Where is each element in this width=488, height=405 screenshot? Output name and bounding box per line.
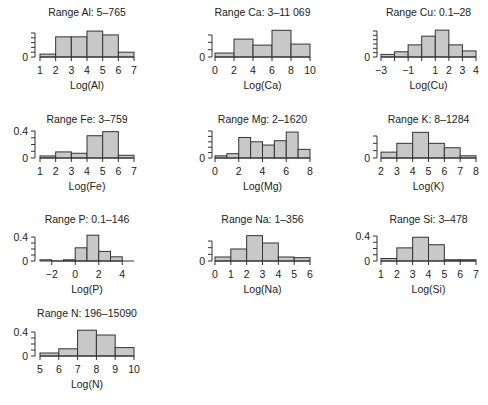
x-tick-label: 2 <box>53 165 59 177</box>
y-tick-label: 0 <box>22 51 28 63</box>
histogram-bar <box>111 257 123 261</box>
x-tick-label: 3 <box>394 165 400 177</box>
histogram-bar <box>71 153 87 158</box>
x-tick-label: 2 <box>244 268 250 280</box>
x-tick-label: 2 <box>394 268 400 280</box>
histogram-bar <box>413 132 429 158</box>
x-tick-label: 4 <box>410 165 416 177</box>
x-tick-label: 1 <box>37 165 43 177</box>
x-tick-label: 6 <box>115 165 121 177</box>
histogram-panel-fe: Range Fe: 3–7591234567Log(Fe)00.4 <box>13 113 137 192</box>
x-tick-label: 2 <box>446 64 452 76</box>
x-axis: 0246810 <box>212 57 316 76</box>
y-tick-label: 0 <box>364 152 370 164</box>
y-axis: 0 <box>22 33 35 63</box>
histogram-bars <box>381 30 476 57</box>
x-axis: 2345678 <box>378 158 479 177</box>
x-axis: 1234567 <box>37 158 137 177</box>
panel-title: Range P: 0.1–146 <box>45 213 130 225</box>
histogram-bar <box>56 37 72 57</box>
x-tick-label: 1 <box>378 268 384 280</box>
y-tick-label: 0.4 <box>13 125 28 137</box>
x-tick-label: 8 <box>288 64 294 76</box>
histogram-bar <box>40 260 52 261</box>
x-axis-label: Log(Al) <box>70 79 104 91</box>
x-tick-label: 2 <box>236 165 242 177</box>
x-tick-label: 7 <box>131 165 137 177</box>
x-tick-label: 9 <box>112 363 118 375</box>
y-tick-label: 0.4 <box>355 230 370 242</box>
x-tick-label: 8 <box>93 363 99 375</box>
x-tick-label: −3 <box>375 64 387 76</box>
y-tick-label: 0 <box>199 255 205 267</box>
histogram-bar <box>253 45 272 57</box>
histogram-bar <box>444 148 460 158</box>
histogram-bars <box>215 30 310 57</box>
panel-title: Range Ca: 3–11 069 <box>214 6 310 18</box>
y-axis: 00.4 <box>355 230 377 267</box>
x-tick-label: 0 <box>212 165 218 177</box>
x-tick-label: 2 <box>378 165 384 177</box>
x-axis: 02468 <box>212 158 313 177</box>
histogram-panel-si: Range Si: 3–4781234567Log(Si)00.4 <box>355 213 479 295</box>
y-axis: 00.4 <box>13 125 35 164</box>
x-tick-label: 6 <box>115 64 121 76</box>
histogram-bar <box>395 52 409 57</box>
x-axis: 1234567 <box>37 57 137 76</box>
y-axis: 0 <box>364 136 377 164</box>
y-axis: 0 <box>199 35 212 63</box>
histogram-bar <box>87 31 103 57</box>
x-axis: −3−11234 <box>375 57 479 76</box>
x-tick-label: 0 <box>212 268 218 280</box>
histogram-panel-k: Range K: 8–12842345678Log(K)0 <box>364 113 479 192</box>
y-axis: 00.4 <box>13 231 35 267</box>
x-tick-label: 3 <box>460 64 466 76</box>
x-tick-label: 6 <box>56 363 62 375</box>
histogram-bar <box>278 257 294 261</box>
histogram-bar <box>422 36 436 57</box>
x-axis: −2024 <box>46 261 126 280</box>
x-tick-label: 3 <box>410 268 416 280</box>
histogram-bar <box>215 257 231 261</box>
histogram-bar <box>118 52 134 57</box>
histogram-bar <box>435 30 449 57</box>
histogram-bars <box>215 132 310 158</box>
histogram-bar <box>59 349 78 356</box>
x-tick-label: 6 <box>441 165 447 177</box>
x-tick-label: 3 <box>68 64 74 76</box>
histogram-bar <box>227 154 239 158</box>
histogram-bars <box>40 235 134 261</box>
x-tick-label: 2 <box>53 64 59 76</box>
x-tick-label: 7 <box>75 363 81 375</box>
x-tick-label: 3 <box>260 268 266 280</box>
x-tick-label: 7 <box>457 165 463 177</box>
y-tick-label: 0 <box>364 255 370 267</box>
y-axis: 0 <box>199 241 212 267</box>
x-tick-label: 4 <box>250 64 256 76</box>
x-tick-label: 7 <box>473 268 479 280</box>
histogram-bar <box>78 330 97 356</box>
x-tick-label: 7 <box>131 64 137 76</box>
y-tick-label: 0 <box>22 152 28 164</box>
histogram-bars <box>381 132 476 158</box>
x-tick-label: 4 <box>426 268 432 280</box>
histogram-bar <box>429 245 445 261</box>
x-tick-label: 2 <box>231 64 237 76</box>
histogram-bar <box>103 35 119 57</box>
histogram-bar <box>413 237 429 261</box>
x-tick-label: 5 <box>37 363 43 375</box>
panel-title: Range K: 8–1284 <box>388 113 470 125</box>
histogram-bar <box>286 132 298 158</box>
x-tick-label: 3 <box>68 165 74 177</box>
x-axis: 0123456 <box>212 261 313 280</box>
histogram-bars <box>381 237 476 261</box>
histogram-panel-ca: Range Ca: 3–11 0690246810Log(Ca)0 <box>199 6 316 91</box>
histogram-panel-na: Range Na: 1–3560123456Log(Na)0 <box>199 213 313 295</box>
y-axis: 0 <box>199 131 212 164</box>
x-tick-label: 6 <box>269 64 275 76</box>
histogram-bar <box>234 39 253 57</box>
panel-title: Range N: 196–15090 <box>37 307 137 319</box>
x-axis-label: Log(N) <box>71 378 103 390</box>
histogram-bar <box>251 142 263 158</box>
x-axis-label: Log(Si) <box>412 283 446 295</box>
